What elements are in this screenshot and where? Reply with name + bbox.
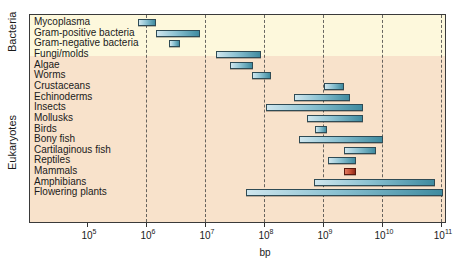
group-label-eukaryotes: Eukaryotes [6,115,18,170]
range-bar [252,72,270,79]
x-tick-label: 106 [140,228,155,241]
range-bar [315,126,327,133]
x-tick [323,223,324,227]
range-bar [156,30,200,37]
range-bar [138,19,155,26]
range-bar [344,147,376,154]
range-bar [169,40,181,47]
x-tick-label: 1011 [434,228,452,241]
x-tick [146,223,147,227]
range-bar [294,94,351,101]
x-tick-label: 108 [258,228,273,241]
range-bar [314,179,434,186]
range-bar [246,189,443,196]
range-bar [230,62,253,69]
x-tick-label: 107 [199,228,214,241]
range-bar [266,104,363,111]
x-axis-label: bp [259,247,270,258]
x-tick [87,223,88,227]
x-tick-label: 1010 [375,228,394,241]
gridline [146,15,147,222]
range-bar [216,51,261,58]
row-label: Crustaceans [34,81,90,92]
x-tick-label: 109 [317,228,332,241]
row-label: Fungi/molds [34,49,88,60]
range-bar [299,136,382,143]
range-bar [328,157,355,164]
x-tick [205,223,206,227]
range-bar [324,83,344,90]
x-tick-label: 105 [81,228,96,241]
row-label: Mollusks [34,113,73,124]
x-tick [264,223,265,227]
group-label-bacteria: Bacteria [6,12,18,52]
plot-area: MycoplasmaGram-positive bacteriaGram-neg… [29,14,446,223]
genome-size-chart: MycoplasmaGram-positive bacteriaGram-neg… [0,0,469,269]
range-bar [344,168,355,175]
range-bar [307,115,364,122]
row-label: Mycoplasma [34,17,90,28]
x-tick [441,223,442,227]
row-label: Flowering plants [34,187,107,198]
x-tick [382,223,383,227]
gridline [205,15,206,222]
